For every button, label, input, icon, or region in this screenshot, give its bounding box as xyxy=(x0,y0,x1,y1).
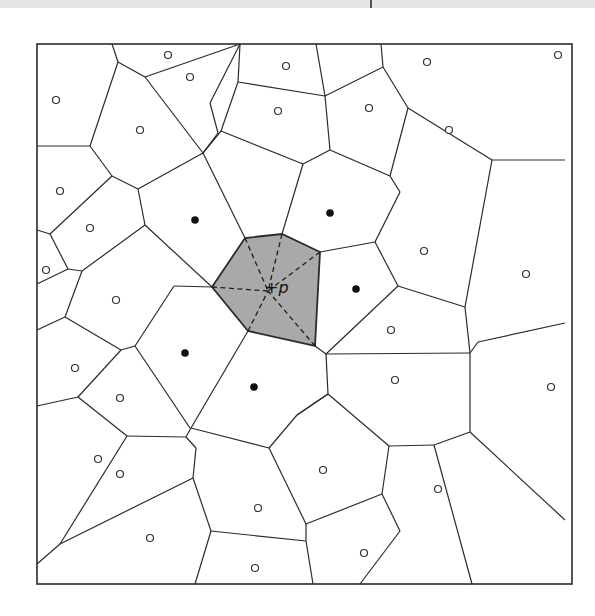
site-open-circle-icon xyxy=(72,365,79,372)
site-open-circle-icon xyxy=(57,188,64,195)
site-open-circle-icon xyxy=(87,225,94,232)
voronoi-edge xyxy=(203,153,245,238)
natural-neighbor-dot-icon xyxy=(191,216,199,224)
voronoi-edge xyxy=(478,323,565,342)
site-open-circle-icon xyxy=(117,395,124,402)
voronoi-edge xyxy=(211,531,306,541)
voronoi-edge xyxy=(78,350,121,397)
voronoi-edge xyxy=(326,354,328,394)
voronoi-edge xyxy=(382,494,400,531)
voronoi-edge xyxy=(135,286,174,346)
voronoi-edge xyxy=(326,353,470,354)
voronoi-edge xyxy=(326,286,398,354)
voronoi-edge xyxy=(269,448,306,524)
voronoi-edge xyxy=(306,541,313,584)
voronoi-edge xyxy=(381,44,383,67)
query-point-name: p xyxy=(277,278,288,297)
voronoi-edge xyxy=(82,225,145,271)
voronoi-edge xyxy=(135,346,190,428)
site-open-circle-icon xyxy=(446,127,453,134)
voronoi-edge xyxy=(282,164,303,234)
voronoi-edge xyxy=(121,346,135,350)
voronoi-edge xyxy=(360,531,400,584)
voronoi-edge xyxy=(315,346,326,354)
voronoi-edge xyxy=(138,153,203,189)
voronoi-edge xyxy=(68,269,82,271)
voronoi-edge xyxy=(37,230,50,234)
voronoi-diagram: +p xyxy=(0,0,595,616)
site-open-circle-icon xyxy=(435,486,442,493)
site-open-circle-icon xyxy=(366,105,373,112)
voronoi-edge xyxy=(90,62,118,146)
voronoi-edge xyxy=(191,331,248,428)
site-open-circle-icon xyxy=(53,97,60,104)
site-open-circle-icon xyxy=(147,535,154,542)
voronoi-edge xyxy=(382,446,389,494)
voronoi-edge xyxy=(90,146,112,176)
voronoi-edge xyxy=(50,176,112,234)
site-open-circle-icon xyxy=(320,467,327,474)
voronoi-edge xyxy=(112,44,118,62)
voronoi-edge xyxy=(375,192,400,242)
voronoi-edge xyxy=(186,437,196,448)
voronoi-edge xyxy=(127,436,186,437)
voronoi-edge xyxy=(238,82,325,96)
voronoi-edge xyxy=(328,394,389,446)
site-open-circle-icon xyxy=(523,271,530,278)
voronoi-edge xyxy=(191,428,269,448)
voronoi-edge xyxy=(390,108,408,176)
site-open-circle-icon xyxy=(113,297,120,304)
voronoi-edge xyxy=(269,415,297,448)
voronoi-edge xyxy=(221,131,303,164)
voronoi-edge xyxy=(320,242,375,252)
voronoi-edge xyxy=(37,544,60,564)
site-open-circle-icon xyxy=(117,471,124,478)
plus-icon: + xyxy=(265,278,278,297)
site-open-circle-icon xyxy=(43,267,50,274)
site-open-circle-icon xyxy=(187,74,194,81)
voronoi-edge xyxy=(195,531,211,584)
voronoi-edge xyxy=(316,44,325,96)
voronoi-edge xyxy=(193,448,196,478)
voronoi-edge xyxy=(390,176,400,192)
site-open-circle-icon xyxy=(137,127,144,134)
site-open-circle-icon xyxy=(424,59,431,66)
voronoi-edge xyxy=(37,317,65,330)
voronoi-edge xyxy=(65,271,82,317)
site-open-circle-icon xyxy=(283,63,290,70)
voronoi-edge xyxy=(203,131,221,153)
natural-neighbor-dot-icon xyxy=(352,285,360,293)
site-open-circle-icon xyxy=(361,550,368,557)
voronoi-edge xyxy=(37,397,78,406)
voronoi-edge xyxy=(383,67,408,108)
voronoi-edge xyxy=(408,108,492,160)
voronoi-edge xyxy=(297,394,328,415)
site-open-circle-icon xyxy=(255,505,262,512)
voronoi-edge xyxy=(186,428,191,437)
site-open-circle-icon xyxy=(95,456,102,463)
voronoi-edge xyxy=(118,62,145,77)
voronoi-edge xyxy=(434,432,470,445)
natural-neighbor-dot-icon xyxy=(181,349,189,357)
voronoi-edge xyxy=(325,96,330,150)
natural-neighbor-dot-icon xyxy=(250,383,258,391)
voronoi-edge xyxy=(303,150,330,164)
site-open-circle-icon xyxy=(252,565,259,572)
voronoi-edge xyxy=(470,342,478,353)
site-open-circle-icon xyxy=(421,248,428,255)
site-open-circle-icon xyxy=(388,327,395,334)
query-point-label: +p xyxy=(265,278,289,297)
voronoi-edge xyxy=(193,478,211,531)
voronoi-edge xyxy=(465,160,492,307)
voronoi-edge xyxy=(470,432,565,520)
site-open-circle-icon xyxy=(165,52,172,59)
voronoi-edge xyxy=(238,44,240,82)
voronoi-edge xyxy=(78,397,127,436)
voronoi-edge xyxy=(145,77,203,153)
voronoi-edge xyxy=(112,176,138,189)
voronoi-edge xyxy=(221,82,238,131)
voronoi-edge xyxy=(325,67,383,96)
voronoi-edge xyxy=(465,307,470,353)
voronoi-edge xyxy=(389,445,434,446)
voronoi-edge xyxy=(138,189,145,225)
